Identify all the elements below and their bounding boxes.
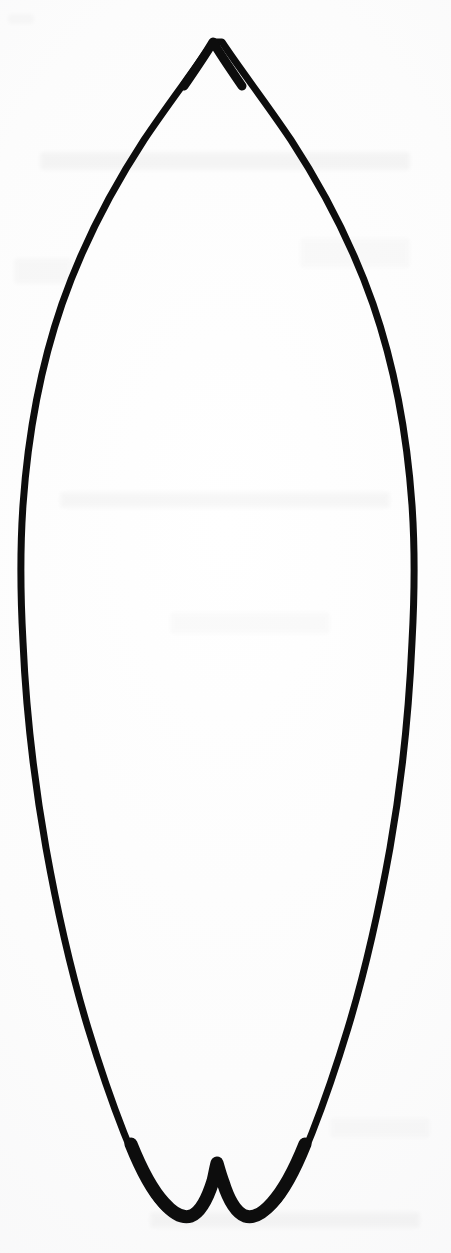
- surfboard-outline-drawing: Surfboard Outline Template: [0, 0, 451, 1253]
- surfboard-outline-path: [21, 42, 415, 1217]
- tail-lobes-ink-weight: [131, 1144, 305, 1217]
- surfboard-template-page: Surfboard Outline Template Pointed nose …: [0, 0, 451, 1253]
